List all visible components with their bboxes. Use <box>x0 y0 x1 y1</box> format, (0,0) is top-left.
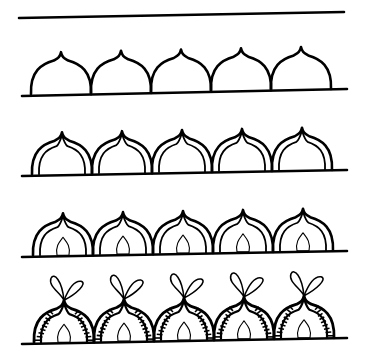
onion-dome <box>33 213 93 255</box>
onion-dome <box>213 210 273 252</box>
teardrop <box>237 234 250 252</box>
leaf-loops <box>291 272 324 296</box>
leaf-loops <box>111 275 144 299</box>
row-step-3 <box>22 209 347 257</box>
teardrop <box>117 236 130 254</box>
baseline <box>22 170 347 176</box>
onion-dome <box>152 130 212 172</box>
onion-dome <box>93 212 153 254</box>
teardrop <box>178 322 191 340</box>
inner-arc <box>40 216 86 255</box>
inner-arc <box>220 213 266 252</box>
baseline <box>22 251 347 257</box>
baseline <box>22 89 347 96</box>
teardrop <box>58 324 71 342</box>
onion-dome <box>212 129 272 171</box>
inner-arc <box>219 132 265 171</box>
leaf-loops <box>51 276 84 300</box>
row-step-4 <box>22 272 347 344</box>
leaf-loops <box>231 273 264 297</box>
onion-dome <box>91 51 151 93</box>
inner-arc <box>99 134 145 173</box>
onion-dome <box>151 50 211 92</box>
inner-arc <box>279 131 325 170</box>
inner-arc <box>159 133 205 172</box>
inner-arc <box>39 135 85 174</box>
onion-dome <box>92 131 152 173</box>
onion-dome <box>94 275 154 341</box>
onion-dome <box>32 132 92 174</box>
onion-dome <box>34 276 94 342</box>
onion-dome <box>211 48 271 90</box>
inner-arc <box>160 214 206 253</box>
top-guide-line <box>19 12 344 18</box>
onion-dome <box>273 209 333 251</box>
row-step-1 <box>22 47 347 96</box>
teardrop <box>298 320 311 338</box>
row-step-2 <box>22 128 347 176</box>
teardrop <box>57 237 70 255</box>
onion-dome <box>271 47 331 89</box>
teardrop <box>118 323 131 341</box>
inner-arc <box>280 212 326 251</box>
pattern-svg <box>0 0 365 364</box>
pattern-drawing <box>0 0 365 364</box>
teardrop <box>238 321 251 339</box>
onion-dome <box>154 274 214 340</box>
onion-dome <box>31 52 91 94</box>
onion-dome <box>214 273 274 339</box>
leaf-loops <box>171 274 204 298</box>
onion-dome <box>153 211 213 253</box>
teardrop <box>297 233 310 251</box>
inner-arc <box>100 215 146 254</box>
teardrop <box>177 235 190 253</box>
onion-dome <box>272 128 332 170</box>
onion-dome <box>274 272 334 338</box>
